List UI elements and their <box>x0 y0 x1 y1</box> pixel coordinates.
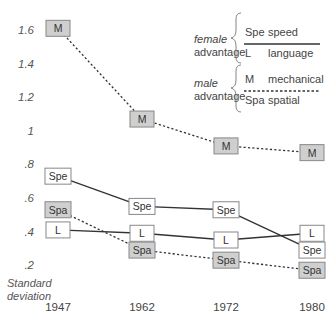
marker-label: Spe <box>49 170 68 182</box>
legend-label-spatial: spatial <box>268 94 300 106</box>
x-tick-label: 1947 <box>45 301 71 313</box>
series-lines <box>58 28 312 270</box>
marker-spatial: Spa <box>129 242 155 258</box>
marker-label: Spa <box>49 204 68 216</box>
series-line-language <box>142 233 226 240</box>
legend: female advantage male advantage Spe spee… <box>194 13 324 112</box>
marker-speed: Spe <box>45 168 71 184</box>
x-axis-labels: 1947196219721980 <box>45 301 325 313</box>
legend-male-label: male <box>194 77 218 89</box>
x-tick-label: 1972 <box>213 301 239 313</box>
marker-label: M <box>54 22 63 34</box>
legend-label-language: language <box>268 47 313 59</box>
marker-label: M <box>308 147 317 159</box>
marker-label: L <box>139 227 145 239</box>
y-tick-label: .2 <box>24 259 34 271</box>
y-tick-label: 1 <box>28 125 34 137</box>
marker-mechanical: M <box>130 111 154 127</box>
y-tick-label: .6 <box>24 192 34 204</box>
marker-language: L <box>300 225 324 241</box>
y-tick-label: .4 <box>24 226 34 238</box>
marker-speed: Spe <box>299 242 325 258</box>
marker-label: Spa <box>217 254 236 266</box>
legend-male-advantage: advantage <box>194 90 245 102</box>
y-tick-label: 1.6 <box>18 24 35 36</box>
x-tick-label: 1962 <box>129 301 155 313</box>
y-tick-label: 1.4 <box>18 58 34 70</box>
y-tick-label: 1.2 <box>18 91 35 103</box>
series-markers: MMMMSpeSpeSpeSpeSpaSpaSpaSpaLLLL <box>45 20 325 278</box>
marker-speed: Spe <box>129 198 155 214</box>
marker-label: M <box>138 113 147 125</box>
legend-code-mechanical: M <box>245 73 254 85</box>
legend-label-speed: speed <box>268 26 298 38</box>
legend-code-speed: Spe <box>245 26 265 38</box>
y-axis-title-line2: deviation <box>7 290 51 302</box>
marker-language: L <box>214 232 238 248</box>
marker-spatial: Spa <box>213 252 239 268</box>
marker-speed: Spe <box>213 202 239 218</box>
legend-code-language: L <box>245 47 251 59</box>
marker-label: Spe <box>303 244 322 256</box>
marker-label: L <box>55 224 61 236</box>
series-line-language <box>226 233 312 240</box>
series-line-language <box>58 230 142 233</box>
marker-label: Spa <box>133 244 152 256</box>
legend-code-spatial: Spa <box>245 94 265 106</box>
brace-icon <box>231 65 241 112</box>
legend-label-mechanical: mechanical <box>268 73 324 85</box>
marker-mechanical: M <box>46 20 70 36</box>
series-line-mechanical <box>58 28 142 119</box>
marker-spatial: Spa <box>45 202 71 218</box>
marker-label: L <box>223 234 229 246</box>
marker-spatial: Spa <box>299 262 325 278</box>
marker-mechanical: M <box>300 145 324 161</box>
y-tick-label: .8 <box>24 158 34 170</box>
series-line-mechanical <box>226 146 312 153</box>
y-axis-ticks: 1.61.41.21.8.6.4.2 <box>18 24 35 271</box>
marker-language: L <box>130 225 154 241</box>
line-chart: 1.61.41.21.8.6.4.2 MMMMSpeSpeSpeSpeSpaSp… <box>0 0 333 322</box>
marker-mechanical: M <box>214 138 238 154</box>
legend-female-advantage: advantage <box>194 46 245 58</box>
marker-label: Spe <box>217 204 236 216</box>
marker-label: Spa <box>303 264 322 276</box>
marker-label: M <box>222 140 231 152</box>
chart-root: 1.61.41.21.8.6.4.2 MMMMSpeSpeSpeSpeSpaSp… <box>0 0 333 322</box>
legend-female-label: female <box>194 33 227 45</box>
marker-language: L <box>46 222 70 238</box>
y-axis-title-line1: Standard <box>7 277 53 289</box>
marker-label: L <box>309 227 315 239</box>
series-line-mechanical <box>142 119 226 146</box>
x-tick-label: 1980 <box>299 301 325 313</box>
marker-label: Spe <box>133 200 152 212</box>
